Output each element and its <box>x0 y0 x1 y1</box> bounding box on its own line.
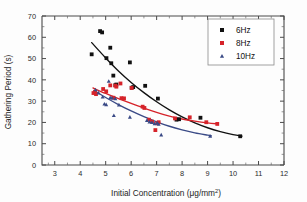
series-10hz <box>93 79 212 138</box>
x-tick-label: 8 <box>180 169 184 178</box>
data-point <box>173 116 177 120</box>
data-point <box>114 85 118 89</box>
legend-marker-8hz[interactable] <box>220 41 224 45</box>
data-point <box>108 83 112 87</box>
x-tick-label: 4 <box>78 169 82 178</box>
x-tick-label: 7 <box>155 169 159 178</box>
data-point <box>112 113 116 117</box>
data-point <box>90 52 94 56</box>
data-point <box>107 79 111 83</box>
data-point <box>122 96 126 100</box>
data-point <box>177 117 181 121</box>
chart-figure: 3456789101112010203040506070 Initial Con… <box>0 0 307 202</box>
x-axis-label: Initial Concentration (μg/mm2) <box>111 188 221 198</box>
data-point <box>105 56 109 60</box>
data-point <box>128 61 132 65</box>
legend[interactable]: 6Hz8Hz10Hz <box>208 19 274 65</box>
y-tick-label: 10 <box>28 139 36 148</box>
x-tick-label: 10 <box>229 169 237 178</box>
y-tick-label: 40 <box>28 76 36 85</box>
y-tick-label: 20 <box>28 118 36 127</box>
x-tick-label: 3 <box>53 169 57 178</box>
y-tick-label: 0 <box>32 161 36 170</box>
data-point <box>111 74 115 78</box>
data-point <box>238 134 242 138</box>
data-point <box>204 120 208 124</box>
y-tick-label: 60 <box>28 33 36 42</box>
data-point <box>199 116 203 120</box>
data-point <box>104 89 108 93</box>
x-tick-label: 6 <box>129 169 133 178</box>
y-tick-label: 70 <box>28 12 36 21</box>
data-point <box>128 115 132 119</box>
x-tick-label: 9 <box>206 169 210 178</box>
data-point <box>156 97 160 101</box>
legend-label-8hz[interactable]: 8Hz <box>236 39 251 48</box>
data-point <box>109 61 113 65</box>
data-point <box>188 115 192 119</box>
data-point <box>153 128 157 132</box>
x-tick-label: 11 <box>255 169 263 178</box>
y-axis-label: Gathering Period (s) <box>3 54 13 129</box>
legend-label-6hz[interactable]: 6Hz <box>236 26 251 35</box>
y-tick-label: 50 <box>28 54 36 63</box>
scatter-plot: 3456789101112010203040506070 Initial Con… <box>0 0 307 202</box>
legend-marker-6hz[interactable] <box>220 28 224 32</box>
data-point <box>215 122 219 126</box>
x-tick-label: 12 <box>280 169 288 178</box>
data-point <box>143 106 147 110</box>
data-point <box>108 46 112 50</box>
data-point <box>159 133 163 137</box>
data-point <box>143 84 147 88</box>
legend-label-10hz[interactable]: 10Hz <box>236 52 255 61</box>
data-point <box>130 86 134 90</box>
x-tick-label: 5 <box>104 169 108 178</box>
data-point <box>119 82 123 86</box>
y-tick-label: 30 <box>28 97 36 106</box>
data-point <box>100 30 104 34</box>
